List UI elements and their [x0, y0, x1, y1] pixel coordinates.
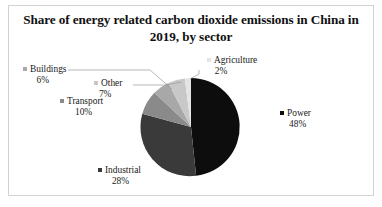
pie-label-transport-value: 10% [64, 107, 103, 118]
pie-slices [140, 78, 239, 176]
pie-label-buildings: Buildings 6% [23, 64, 66, 87]
pie-label-agriculture: Agriculture 2% [207, 55, 257, 78]
pie-plot-area: Agriculture 2% Power 48% Industrial 28% … [0, 0, 382, 207]
pie-label-industrial-value: 28% [100, 176, 141, 187]
pie-label-power-text: Power [287, 108, 311, 118]
pie-label-buildings-text: Buildings [30, 64, 66, 74]
pie-label-industrial-text: Industrial [105, 165, 141, 175]
pie-label-other-text: Other [101, 78, 122, 88]
pie-label-other: Other 7% [94, 78, 122, 101]
pie-label-other-value: 7% [88, 89, 122, 100]
pie-label-power-value: 48% [289, 119, 311, 130]
legend-marker-industrial [98, 168, 102, 172]
pie-label-agriculture-value: 2% [185, 66, 257, 77]
legend-marker-agriculture [207, 58, 211, 62]
pie-chart-svg [0, 0, 382, 207]
pie-label-industrial: Industrial 28% [98, 165, 141, 188]
chart-page: Share of energy related carbon dioxide e… [0, 0, 382, 207]
legend-marker-other [94, 81, 98, 85]
pie-label-buildings-value: 6% [19, 75, 66, 86]
legend-marker-transport [60, 99, 64, 103]
pie-label-agriculture-text: Agriculture [214, 55, 257, 65]
legend-marker-power [280, 111, 284, 115]
pie-slice-power[interactable] [191, 78, 240, 176]
pie-label-power: Power 48% [280, 108, 311, 131]
legend-marker-buildings [23, 67, 27, 71]
